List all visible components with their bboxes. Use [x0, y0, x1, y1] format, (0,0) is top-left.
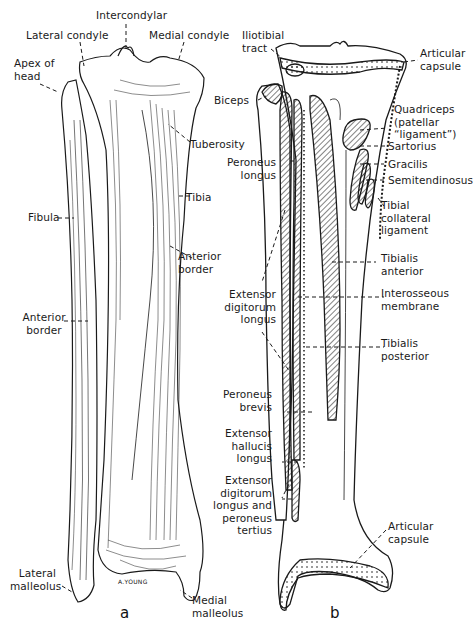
label-articular-capsule-bottom: Articular capsule: [388, 520, 434, 545]
label-tibialis-posterior: Tibialis posterior: [381, 337, 429, 362]
label-articular-capsule-top: Articular capsule: [420, 47, 466, 72]
label-interosseous-membrane: Interosseous membrane: [381, 287, 449, 312]
panel-letter-a: a: [120, 604, 129, 622]
label-tibialis-anterior: Tibialis anterior: [381, 252, 423, 277]
label-biceps: Biceps: [214, 94, 249, 107]
label-fibula: Fibula: [28, 211, 59, 224]
label-lateral-malleolus: Lateral malleolus: [10, 567, 56, 592]
label-gracilis: Gracilis: [388, 158, 428, 171]
label-iliotibial-tract: Iliotibial tract: [242, 29, 284, 54]
panel-a-drawing: [62, 46, 204, 602]
label-tibia: Tibia: [186, 191, 212, 204]
label-apex-of-head: Apex of head: [14, 57, 55, 82]
label-medial-condyle: Medial condyle: [149, 29, 229, 42]
artist-signature: A.YOUNG: [118, 578, 148, 585]
label-peroneus-longus: Peroneus longus: [212, 156, 276, 181]
label-tibial-collateral-ligament: Tibial collateral ligament: [381, 199, 431, 237]
label-sartorius: Sartorius: [388, 140, 436, 153]
label-semitendinosus: Semitendinosus: [388, 174, 473, 187]
panel-b-drawing: [257, 41, 407, 610]
label-medial-malleolus: Medial malleolus: [192, 594, 243, 619]
label-extensor-hallucis-longus: Extensor hallucis longus: [200, 427, 272, 465]
label-peroneus-brevis: Peroneus brevis: [200, 388, 272, 413]
label-quadriceps: Quadriceps (patellar “ligament”): [394, 103, 456, 141]
label-lateral-condyle: Lateral condyle: [26, 29, 108, 42]
label-extensor-digitorum-longus: Extensor digitorum longus: [212, 288, 276, 326]
panel-letter-b: b: [330, 604, 340, 622]
label-tuberosity: Tuberosity: [190, 138, 245, 151]
label-intercondylar: Intercondylar: [96, 9, 162, 22]
label-extensor-digitorum-longus-peroneus-tertius: Extensor digitorum longus and peroneus t…: [196, 474, 272, 537]
label-anterior-border-fibula: Anterior border: [22, 311, 66, 336]
label-anterior-border-tibia: Anterior border: [178, 250, 221, 275]
